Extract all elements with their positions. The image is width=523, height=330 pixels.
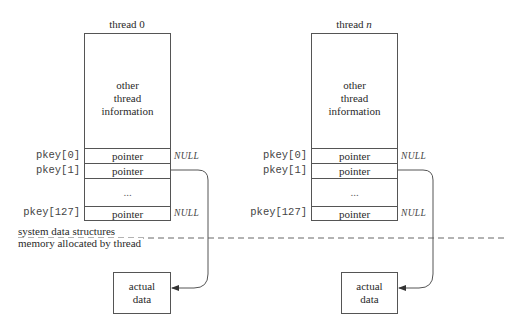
thread-n-slot-127: pointer [312, 206, 397, 221]
thread-0-slot-127: pointer [85, 206, 170, 221]
pointer-arrow-thread-n [397, 170, 433, 288]
data-line: actual [342, 280, 397, 293]
slot-value: pointer [112, 151, 143, 162]
info-line: other [312, 79, 397, 92]
thread-n-slot-0: pointer [312, 148, 397, 163]
thread-title-prefix: thread [336, 18, 366, 30]
slot-value: pointer [112, 209, 143, 220]
actual-data-label: actual data [342, 280, 397, 306]
thread-n-info: other thread information [312, 79, 397, 118]
thread-0-key-0: pkey[0] [0, 150, 80, 161]
thread-0-slot-ellipsis: ... [85, 178, 170, 206]
slot-value: pointer [339, 166, 370, 177]
thread-0-structure: other thread information pointer pointer… [84, 33, 171, 221]
slot-value: pointer [339, 209, 370, 220]
thread-n-key-0: pkey[0] [227, 150, 307, 161]
slot-ellipsis: ... [350, 187, 358, 198]
thread-0-title: thread 0 [84, 18, 170, 30]
thread-0-slot-1: pointer [85, 163, 170, 178]
info-line: other [85, 79, 170, 92]
info-line: thread [312, 92, 397, 105]
system-data-structures-label: system data structures [18, 226, 115, 237]
memory-allocated-label: memory allocated by thread [18, 238, 143, 249]
thread-title-index: 0 [139, 18, 145, 30]
slot-value: pointer [339, 151, 370, 162]
thread-n-structure: other thread information pointer pointer… [311, 33, 398, 221]
info-line: information [312, 105, 397, 118]
thread-0-null-0: NULL [174, 151, 199, 161]
thread-n-actual-data-box: actual data [341, 272, 398, 314]
thread-0-null-127: NULL [174, 208, 199, 218]
thread-title-prefix: thread [109, 18, 139, 30]
data-line: actual [114, 280, 170, 293]
data-line: data [114, 293, 170, 306]
thread-n-key-1: pkey[1] [227, 165, 307, 176]
thread-0-info: other thread information [85, 79, 170, 118]
thread-n-null-127: NULL [401, 208, 426, 218]
thread-n-key-127: pkey[127] [227, 207, 307, 218]
info-line: information [85, 105, 170, 118]
thread-0-key-1: pkey[1] [0, 165, 80, 176]
data-line: data [342, 293, 397, 306]
thread-0-key-127: pkey[127] [0, 207, 80, 218]
actual-data-label: actual data [114, 280, 170, 306]
slot-ellipsis: ... [123, 187, 131, 198]
thread-n-slot-ellipsis: ... [312, 178, 397, 206]
thread-title-index: n [366, 18, 372, 30]
pointer-arrow-thread-0 [170, 170, 208, 288]
thread-0-actual-data-box: actual data [113, 272, 171, 314]
slot-value: pointer [112, 166, 143, 177]
thread-n-slot-1: pointer [312, 163, 397, 178]
thread-0-slot-0: pointer [85, 148, 170, 163]
thread-n-null-0: NULL [401, 151, 426, 161]
info-line: thread [85, 92, 170, 105]
thread-n-title: thread n [311, 18, 397, 30]
